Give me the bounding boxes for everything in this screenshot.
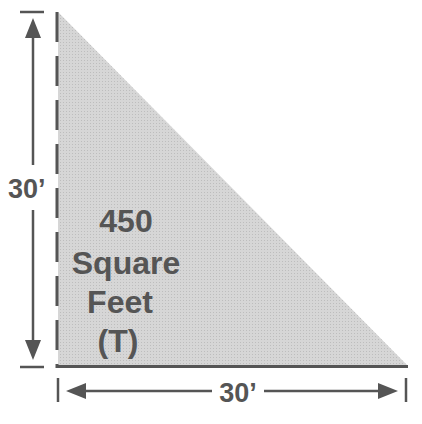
arrow-down-icon <box>25 340 41 360</box>
width-label: 30’ <box>219 378 257 408</box>
arrow-up-icon <box>25 18 41 38</box>
triangle-area-diagram: 30’ 30’ 450 Square Feet (T) <box>0 0 422 424</box>
arrow-left-icon <box>66 383 86 399</box>
svg-text:Square: Square <box>72 245 180 281</box>
svg-text:Feet: Feet <box>87 284 153 320</box>
svg-text:450: 450 <box>99 203 152 239</box>
arrow-right-icon <box>378 383 398 399</box>
height-label: 30’ <box>8 174 46 204</box>
svg-text:(T): (T) <box>98 323 139 359</box>
